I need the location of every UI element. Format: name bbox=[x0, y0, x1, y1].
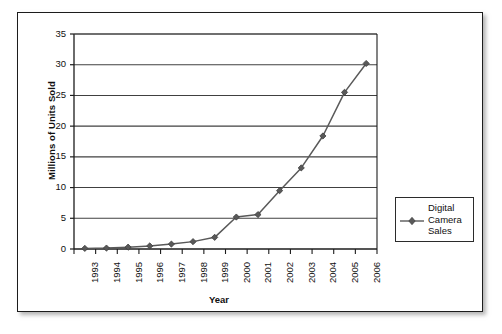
x-axis-tick-label: 2005 bbox=[349, 262, 360, 283]
x-axis-tick-label: 1996 bbox=[154, 262, 165, 283]
x-axis-tick-label: 1994 bbox=[111, 262, 122, 283]
line-diamond-marker-icon bbox=[399, 213, 425, 225]
legend-label: Digital Camera Sales bbox=[428, 202, 474, 237]
x-axis-tick-label: 2006 bbox=[371, 262, 382, 283]
data-point-marker bbox=[82, 245, 88, 251]
x-axis-tick-label: 1993 bbox=[89, 262, 100, 283]
x-axis-tick-label: 1995 bbox=[133, 262, 144, 283]
x-axis-tick-label: 2004 bbox=[327, 262, 338, 283]
data-series-line bbox=[85, 63, 366, 248]
x-axis-tick-label: 2003 bbox=[306, 262, 317, 283]
x-axis-tick-label: 1997 bbox=[176, 262, 187, 283]
x-axis-tick-label: 2000 bbox=[241, 262, 252, 283]
x-axis-tick-label: 1998 bbox=[198, 262, 209, 283]
chart-frame: Millions of Units Sold 05101520253035 19… bbox=[17, 12, 483, 312]
data-point-marker bbox=[168, 241, 174, 247]
chart-area: Millions of Units Sold 05101520253035 19… bbox=[18, 13, 484, 313]
data-point-marker bbox=[190, 239, 196, 245]
chart-legend: Digital Camera Sales bbox=[395, 197, 474, 242]
x-axis-tick-label: 1999 bbox=[219, 262, 230, 283]
data-point-marker bbox=[147, 243, 153, 249]
x-axis-title: Year bbox=[54, 294, 384, 305]
legend-entry-digital-camera-sales: Digital Camera Sales bbox=[396, 198, 473, 241]
x-axis-tick-label: 2002 bbox=[284, 262, 295, 283]
x-axis-tick-label: 2001 bbox=[262, 262, 273, 283]
data-point-marker bbox=[103, 245, 109, 251]
